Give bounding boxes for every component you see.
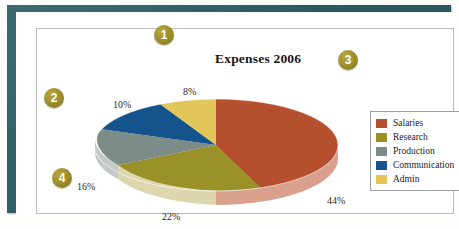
pie-label-communication: 10% xyxy=(113,99,131,110)
legend-label-salaries: Salaries xyxy=(393,118,423,128)
legend-item-production: Production xyxy=(376,144,459,158)
legend: Salaries Research Production Communicati… xyxy=(370,111,459,191)
frame-inner-mat: Expenses 2006 xyxy=(16,12,456,216)
annotation-marker-4: 4 xyxy=(52,168,72,188)
legend-label-admin: Admin xyxy=(393,174,419,184)
legend-swatch-communication xyxy=(376,161,387,170)
legend-swatch-admin xyxy=(376,175,387,184)
legend-label-research: Research xyxy=(393,132,428,142)
chart-card: Expenses 2006 xyxy=(36,28,454,214)
page-title: Expenses 2006 xyxy=(215,51,301,67)
legend-item-admin: Admin xyxy=(376,172,459,186)
legend-label-communication: Communication xyxy=(393,160,454,170)
legend-swatch-production xyxy=(376,147,387,156)
pie-chart xyxy=(92,93,340,211)
annotation-marker-1: 1 xyxy=(154,25,174,45)
legend-swatch-research xyxy=(376,133,387,142)
legend-item-salaries: Salaries xyxy=(376,116,459,130)
screenshot-root: Expenses 2006 xyxy=(0,0,459,229)
pie-label-research: 22% xyxy=(162,211,180,222)
pie-chart-svg xyxy=(92,93,340,211)
legend-item-communication: Communication xyxy=(376,158,459,172)
outer-frame: Expenses 2006 xyxy=(7,5,451,213)
pie-label-salaries: 44% xyxy=(327,195,345,206)
annotation-marker-3: 3 xyxy=(338,50,358,70)
legend-label-production: Production xyxy=(393,146,435,156)
pie-label-admin: 8% xyxy=(183,86,196,97)
legend-item-research: Research xyxy=(376,130,459,144)
legend-swatch-salaries xyxy=(376,119,387,128)
annotation-marker-2: 2 xyxy=(44,88,64,108)
pie-label-production: 16% xyxy=(77,181,95,192)
